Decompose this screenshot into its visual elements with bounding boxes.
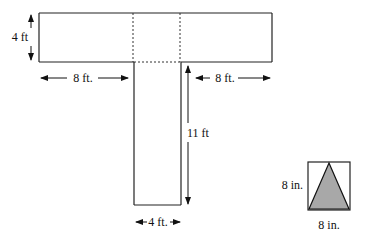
inset-bottom-label: 8 in. xyxy=(318,218,339,232)
dimension-top-height: 4 ft xyxy=(12,15,31,60)
top-bar xyxy=(39,13,272,62)
right-width-label: 8 ft. xyxy=(215,71,234,85)
inset-side-label: 8 in. xyxy=(282,178,303,192)
stem-width-label: 4 ft. xyxy=(148,215,167,229)
top-height-label: 4 ft xyxy=(12,30,29,44)
t-shape-diagram: 4 ft 8 ft. 8 ft. 11 ft 4 ft. 8 in. 8 in. xyxy=(0,0,377,240)
stem xyxy=(134,62,181,205)
dimension-stem-height: 11 ft xyxy=(187,66,210,204)
dimension-stem-width: 4 ft. xyxy=(136,215,180,229)
left-width-label: 8 ft. xyxy=(73,71,92,85)
inset-square-triangle: 8 in. 8 in. xyxy=(282,162,350,232)
dimension-left-width: 8 ft. xyxy=(41,71,128,85)
stem-height-label: 11 ft xyxy=(187,126,210,140)
dimension-right-width: 8 ft. xyxy=(196,71,270,85)
